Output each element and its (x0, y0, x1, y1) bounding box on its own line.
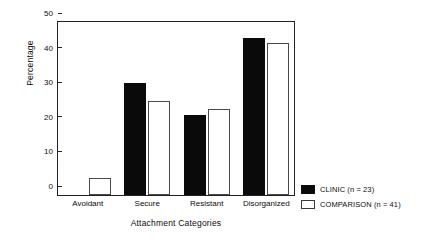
y-axis-tick: 40 (44, 43, 58, 52)
legend-label: COMPARISON (n = 41) (320, 200, 401, 209)
bar-groups (58, 22, 294, 195)
legend-item: CLINIC (n = 23) (301, 183, 401, 195)
bar-group (237, 22, 297, 195)
legend-label: CLINIC (n = 23) (320, 185, 374, 194)
x-axis-tick-label: Secure (135, 199, 160, 208)
y-axis-tick: 30 (44, 78, 58, 87)
x-axis-tick-label: Disorganized (243, 199, 290, 208)
y-axis-tick-label: 30 (44, 78, 53, 87)
plot-area: 01020304050 AvoidantSecureResistantDisor… (57, 21, 295, 196)
y-axis-tick-label: 20 (44, 112, 53, 121)
y-axis-tick-mark (58, 13, 62, 14)
bar-group (177, 22, 237, 195)
bar-comparison (148, 101, 170, 196)
bar-chart-figure: Percentage 01020304050 AvoidantSecureRes… (0, 0, 426, 245)
x-axis-tick-label: Avoidant (72, 199, 103, 208)
chart-legend: CLINIC (n = 23)COMPARISON (n = 41) (301, 183, 401, 213)
y-axis-tick-label: 10 (44, 147, 53, 156)
legend-swatch-comparison-icon (301, 200, 315, 209)
y-axis-tick: 10 (44, 147, 58, 156)
bar-clinic (124, 83, 146, 195)
y-axis-tick-label: 50 (44, 9, 53, 18)
y-axis-tick: 50 (44, 9, 58, 18)
bar-clinic (243, 38, 265, 196)
bar-group (58, 22, 118, 195)
x-axis-tick-label: Resistant (190, 199, 223, 208)
legend-swatch-clinic-icon (301, 185, 315, 194)
bar-comparison (208, 109, 230, 195)
y-axis-title: Percentage (25, 3, 35, 123)
x-axis-title: Attachment Categories (57, 218, 295, 228)
bar-group (118, 22, 178, 195)
y-axis-tick: 20 (44, 112, 58, 121)
y-axis-tick-label: 0 (49, 182, 53, 191)
y-axis-tick: 0 (49, 182, 58, 191)
bar-comparison (267, 43, 289, 195)
legend-item: COMPARISON (n = 41) (301, 198, 401, 210)
bar-clinic (184, 115, 206, 196)
bar-comparison (89, 178, 111, 196)
y-axis-tick-label: 40 (44, 43, 53, 52)
